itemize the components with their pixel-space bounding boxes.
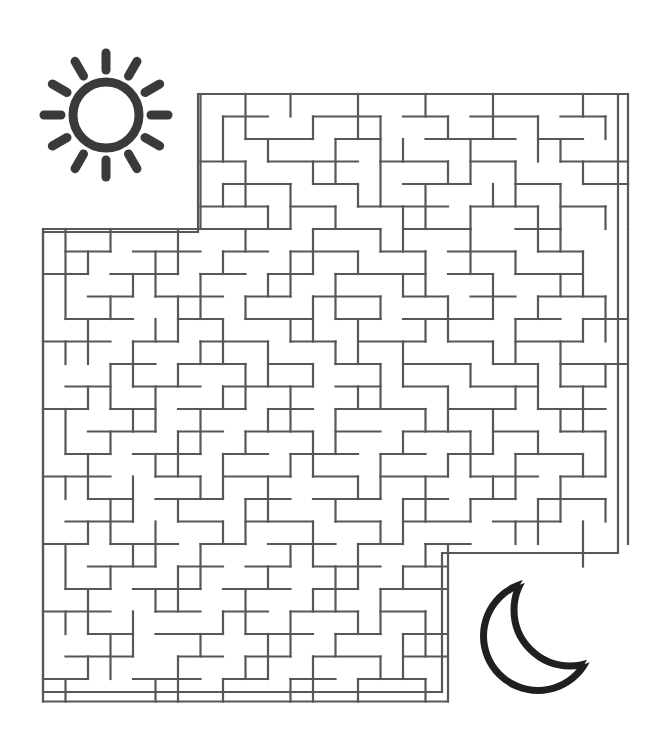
moon-crescent-hollow: [487, 585, 589, 687]
maze-puzzle-canvas: [0, 0, 660, 752]
